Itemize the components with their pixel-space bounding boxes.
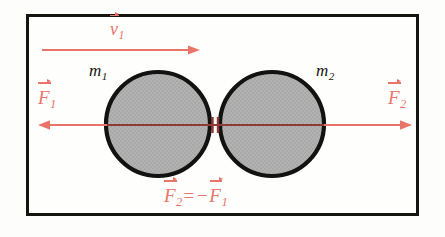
- equation-newtons-third-law: F2=−F1: [164, 186, 227, 205]
- mass-m1-subscript: 1: [102, 70, 108, 82]
- physics-figure: v1 F1 F2 m1 m2 F2=−F1: [0, 0, 445, 237]
- equation-rhs-subscript: 1: [221, 195, 227, 209]
- equation-equals-operator: =: [182, 185, 196, 206]
- mass-label-m1: m1: [89, 62, 107, 79]
- mass-m1-symbol: m: [89, 61, 101, 80]
- force-f1-symbol: F: [38, 88, 50, 107]
- mass-m2-symbol: m: [316, 61, 328, 80]
- velocity-label-v1: v1: [110, 20, 124, 38]
- force-f2-symbol: F: [388, 88, 400, 107]
- equation-rhs-symbol: F: [209, 186, 221, 205]
- force-label-f2: F2: [388, 88, 406, 107]
- velocity-symbol: v: [110, 20, 118, 38]
- velocity-subscript: 1: [119, 28, 125, 42]
- equation-lhs-subscript: 2: [176, 195, 182, 209]
- equation-lhs-symbol: F: [164, 186, 176, 205]
- mass-m2-subscript: 2: [329, 70, 335, 82]
- mass-label-m2: m2: [316, 62, 334, 79]
- force-f2-subscript: 2: [400, 97, 406, 111]
- velocity-arrow-v1: [42, 45, 200, 54]
- force-f1-subscript: 1: [50, 97, 56, 111]
- equation-minus-operator: −: [196, 185, 210, 206]
- force-label-f1: F1: [38, 88, 56, 107]
